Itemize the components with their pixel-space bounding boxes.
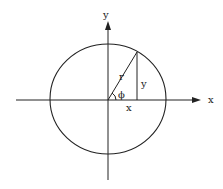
opposite-y-label: y: [140, 78, 147, 89]
angle-arc: [112, 93, 116, 100]
adjacent-x-label: x: [126, 102, 132, 113]
y-axis-label: y: [102, 9, 109, 20]
y-axis-arrow-icon: [105, 21, 111, 30]
x-axis-arrow-icon: [192, 97, 201, 103]
polar-coordinate-diagram: y x r y ϕ x: [0, 0, 223, 189]
radius-label: r: [119, 71, 124, 82]
angle-phi-label: ϕ: [118, 89, 125, 100]
x-axis-label: x: [208, 94, 214, 105]
